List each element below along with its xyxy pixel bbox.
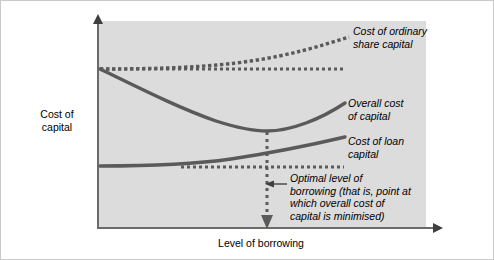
label-overall-line1: Overall cost	[348, 97, 488, 110]
label-loan-line1: Cost of loan	[348, 135, 488, 148]
series-cost-of-ordinary-share-capital	[100, 37, 349, 69]
label-ordinary-line2: share capital	[353, 38, 491, 51]
label-overall-cost-of-capital: Overall cost of capital	[348, 97, 488, 122]
series-overall-cost-of-capital	[100, 69, 345, 131]
label-optimal-line1: Optimal level of	[290, 172, 490, 185]
label-cost-of-ordinary-share-capital: Cost of ordinary share capital	[353, 25, 491, 50]
x-axis-label: Level of borrowing	[171, 237, 351, 250]
series-cost-of-loan-capital	[100, 137, 345, 166]
label-loan-line2: capital	[348, 148, 488, 161]
figure-container: Cost of capital Level of borrowing Cost …	[0, 0, 494, 260]
label-ordinary-line1: Cost of ordinary	[353, 25, 491, 38]
label-overall-line2: of capital	[348, 110, 488, 123]
label-cost-of-loan-capital: Cost of loan capital	[348, 135, 488, 160]
y-axis-label-line2: capital	[21, 121, 93, 134]
label-optimal-line4: capital is minimised)	[290, 210, 490, 223]
y-axis-label-line1: Cost of	[21, 108, 93, 121]
label-optimal-line3: which overall cost of	[290, 197, 490, 210]
annotation-optimal-level: Optimal level of borrowing (that is, poi…	[290, 172, 490, 222]
optimal-level-dropline-arrowhead-icon	[261, 215, 273, 229]
y-axis-label: Cost of capital	[21, 108, 93, 134]
label-optimal-line2: borrowing (that is, point at	[290, 185, 490, 198]
